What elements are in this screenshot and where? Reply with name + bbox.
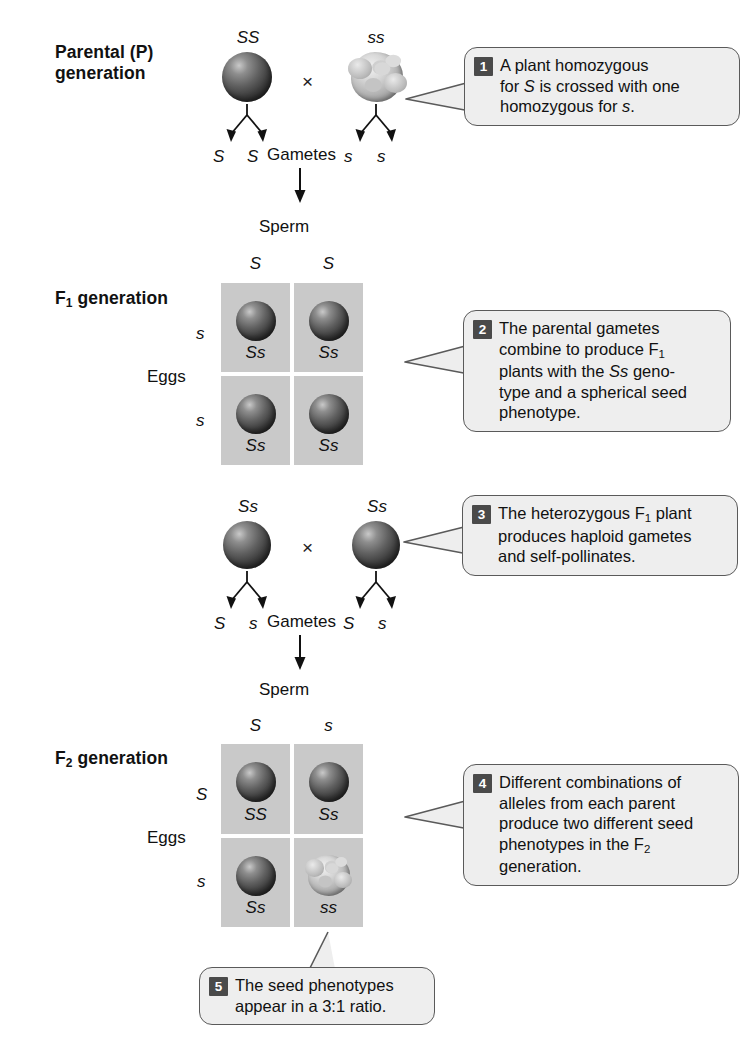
round-seed-icon <box>309 762 349 802</box>
callout-5-line-2: appear in a 3:1 ratio. <box>235 997 386 1015</box>
callout-3-line-2: produces haploid gametes <box>498 527 692 545</box>
round-seed-icon <box>236 301 276 341</box>
f1-cell-2-genotype: Ss <box>294 343 363 363</box>
callout-4-line-3: produce two different seed <box>499 814 693 832</box>
callout-4-badge: 4 <box>473 774 492 793</box>
f1-cell-3-genotype: Ss <box>221 436 290 456</box>
round-seed-icon <box>223 521 271 569</box>
f1-punnett-square: Ss Ss Ss Ss <box>221 283 363 465</box>
callout-2-line-3: plants with the Ss geno- <box>499 362 675 380</box>
f2-cell-4-genotype: ss <box>294 898 363 918</box>
f1-punnett-cell-4: Ss <box>294 376 363 465</box>
f1-generation-label-rest: generation <box>73 288 168 308</box>
parental-right-gamete-1: s <box>344 148 353 165</box>
f2-egg-allele-1: S <box>196 786 207 803</box>
f1-egg-allele-1: s <box>196 325 205 342</box>
f1-sperm-label: Sperm <box>259 218 309 235</box>
f1-eggs-label: Eggs <box>147 368 186 385</box>
callout-1-line-2: for S is crossed with one <box>500 77 680 95</box>
parental-gametes-label: Gametes <box>267 146 336 163</box>
f1cross-gametes-label: Gametes <box>267 613 336 630</box>
callout-1-text: A plant homozygous for S is crossed with… <box>500 55 680 117</box>
callout-2-line-5: phenotype. <box>499 403 581 421</box>
callout-4-line-1: Different combinations of <box>499 773 681 791</box>
parental-left-genotype: SS <box>222 29 274 46</box>
round-seed-icon <box>236 762 276 802</box>
callout-2-badge: 2 <box>473 320 492 339</box>
round-seed-icon <box>222 52 272 102</box>
callout-3-badge: 3 <box>472 505 491 524</box>
wrinkled-seed-icon <box>351 52 403 102</box>
f2-egg-allele-2: s <box>197 873 206 890</box>
callout-5-badge: 5 <box>209 977 228 996</box>
f1-generation-label: F1 generation <box>55 288 168 311</box>
f1-cell-1-genotype: Ss <box>221 343 290 363</box>
parental-right-genotype: ss <box>350 29 402 46</box>
callout-2-line-1: The parental gametes <box>499 319 660 337</box>
callout-1-line-3: homozygous for s. <box>500 97 635 115</box>
f2-generation-label-main: F <box>55 748 66 768</box>
round-seed-icon <box>236 394 276 434</box>
callout-2: 2 The parental gametes combine to produc… <box>463 310 731 432</box>
f2-eggs-label: Eggs <box>147 829 186 846</box>
f1cross-right-genotype: Ss <box>351 498 403 515</box>
f1cross-right-gamete-arrows <box>339 571 417 613</box>
callout-4-line-2: alleles from each parent <box>499 794 675 812</box>
f1-punnett-cell-2: Ss <box>294 283 363 372</box>
f1-punnett-cell-1: Ss <box>221 283 290 372</box>
parental-left-gamete-2: S <box>247 148 258 165</box>
f1cross-left-gamete-2: s <box>249 615 258 632</box>
callout-5-line-1: The seed phenotypes <box>235 976 394 994</box>
callout-3-text: The heterozygous F1 plant produces haplo… <box>498 503 692 567</box>
callout-2-line-4: type and a spherical seed <box>499 383 687 401</box>
callout-1: 1 A plant homozygous for S is crossed wi… <box>464 47 740 126</box>
f2-sperm-label: Sperm <box>259 681 309 698</box>
callout-2-line-2: combine to produce F1 <box>499 340 665 358</box>
parental-generation-label: Parental (P) generation <box>55 42 153 84</box>
f2-punnett-cell-4: ss <box>294 838 363 928</box>
f1cross-left-gamete-arrows <box>210 571 288 613</box>
callout-1-line-1: A plant homozygous <box>500 56 649 74</box>
f1cross-right-gamete-1: S <box>343 615 354 632</box>
callout-2-text: The parental gametes combine to produce … <box>499 318 687 423</box>
round-seed-icon <box>236 856 276 896</box>
f1cross-right-gamete-2: s <box>378 615 387 632</box>
f1cross-gametes-down-arrow <box>290 635 310 671</box>
f2-generation-label-sub: 2 <box>66 756 73 770</box>
wrinkled-seed-icon <box>308 855 350 896</box>
f2-cell-2-genotype: Ss <box>294 805 363 825</box>
f1cross-cross-symbol: × <box>302 538 313 557</box>
f2-cell-1-genotype: SS <box>221 805 290 825</box>
f1cross-left-gamete-1: S <box>214 615 225 632</box>
f2-punnett-cell-1: SS <box>221 744 290 834</box>
callout-1-badge: 1 <box>474 57 493 76</box>
callout-4-line-4: phenotypes in the F2 <box>499 835 650 853</box>
round-seed-icon <box>309 301 349 341</box>
f2-punnett-cell-3: Ss <box>221 838 290 928</box>
f2-punnett-cell-2: Ss <box>294 744 363 834</box>
parental-left-gamete-arrows <box>210 104 288 146</box>
parental-generation-label-line1: Parental (P) <box>55 42 153 63</box>
f1-cell-4-genotype: Ss <box>294 436 363 456</box>
parental-gametes-down-arrow <box>290 168 310 204</box>
callout-3-line-1: The heterozygous F1 plant <box>498 504 692 522</box>
f2-punnett-square: SS Ss Ss ss <box>221 744 363 927</box>
parental-generation-label-line2: generation <box>55 63 153 84</box>
f1-sperm-allele-1: S <box>221 255 290 272</box>
callout-3-line-3: and self-pollinates. <box>498 547 636 565</box>
f2-generation-label-rest: generation <box>73 748 168 768</box>
callout-3: 3 The heterozygous F1 plant produces hap… <box>462 495 738 576</box>
callout-4-text: Different combinations of alleles from e… <box>499 772 693 877</box>
round-seed-icon <box>352 521 400 569</box>
f1-generation-label-sub: 1 <box>66 296 73 310</box>
round-seed-icon <box>309 394 349 434</box>
f2-sperm-allele-2: s <box>294 717 363 734</box>
f1cross-left-genotype: Ss <box>222 498 274 515</box>
f2-cell-3-genotype: Ss <box>221 898 290 918</box>
f1-egg-allele-2: s <box>196 412 205 429</box>
callout-5: 5 The seed phenotypes appear in a 3:1 ra… <box>199 967 435 1025</box>
parental-right-gamete-2: s <box>377 148 386 165</box>
f1-punnett-cell-3: Ss <box>221 376 290 465</box>
f1-sperm-allele-2: S <box>294 255 363 272</box>
f2-generation-label: F2 generation <box>55 748 168 771</box>
